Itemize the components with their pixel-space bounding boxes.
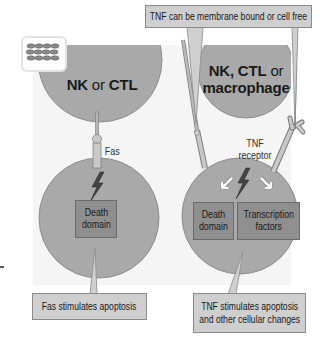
effector-label-left: NK or CTL (56, 76, 148, 93)
transcription-factors-box: Transcriptionfactors (237, 202, 300, 240)
tnf-receptor-label: TNF receptor (234, 138, 275, 162)
effector-label-right: NK, CTL or macrophage (198, 62, 294, 96)
fas-label: Fas (105, 146, 120, 158)
death-domain-box-right: Deathdomain (193, 202, 234, 240)
callout-fas-result: Fas stimulates apoptosis (32, 293, 147, 320)
fas-receptor (93, 143, 101, 168)
callout-tnf-forms: TNF can be membrane bound or cell free (145, 5, 312, 28)
diagram-stage: TNF can be membrane bound or cell free N… (0, 0, 326, 342)
callout-tnf-result: TNF stimulates apoptosisand other cellul… (193, 293, 306, 333)
fas-ligand-stalk (96, 112, 99, 138)
death-domain-box-left: Deathdomain (75, 200, 117, 238)
fas-ligand-head (93, 135, 102, 144)
cell-layer-icon (21, 36, 67, 72)
